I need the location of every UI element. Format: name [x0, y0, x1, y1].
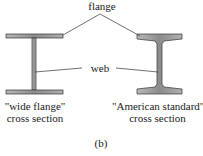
- wide-flange-beam: [6, 34, 63, 94]
- wide-flange-caption-line1: "wide flange": [0, 100, 70, 112]
- american-standard-caption-line1: "American standard": [112, 100, 203, 112]
- flange-leader-lines: [63, 14, 140, 36]
- american-standard-caption-line2: cross section: [112, 112, 203, 124]
- wide-flange-caption-line2: cross section: [0, 112, 70, 124]
- flange-label: flange: [82, 0, 122, 12]
- beam-diagram: [0, 0, 203, 156]
- web-label: web: [84, 62, 116, 74]
- american-standard-beam: [137, 34, 182, 94]
- figure-label: (b): [86, 137, 116, 149]
